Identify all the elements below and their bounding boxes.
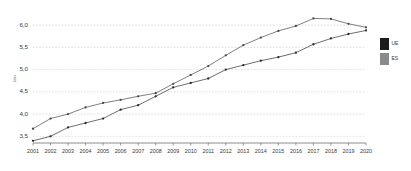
- data-point-es: [190, 82, 192, 84]
- data-point-es: [155, 95, 157, 97]
- data-point-ue: [119, 99, 121, 101]
- data-point-ue: [67, 113, 69, 115]
- chart-legend: UEES: [380, 38, 399, 65]
- y-axis-ticks: 3,54,04,55,05,56,0: [19, 21, 28, 139]
- x-tick-label: 2007: [132, 148, 144, 154]
- data-point-ue: [84, 106, 86, 108]
- legend-label-es[interactable]: ES: [392, 55, 399, 61]
- data-point-es: [172, 86, 174, 88]
- data-point-es: [277, 56, 279, 58]
- data-point-ue: [137, 95, 139, 97]
- y-tick-label: 5,5: [19, 43, 28, 50]
- data-point-es: [295, 52, 297, 54]
- y-tick-label: 4,5: [19, 87, 28, 94]
- data-point-ue: [225, 54, 227, 56]
- data-point-es: [67, 126, 69, 128]
- data-point-ue: [312, 17, 314, 19]
- x-tick-label: 2008: [150, 148, 162, 154]
- x-tick-label: 2002: [45, 148, 57, 154]
- y-tick-label: 4,0: [19, 110, 28, 117]
- data-point-ue: [330, 18, 332, 20]
- data-point-es: [102, 117, 104, 119]
- x-tick-label: 2001: [27, 148, 39, 154]
- x-tick-label: 2004: [80, 148, 92, 154]
- chart-canvas: 3,54,04,55,05,56,0 200120022003200420052…: [0, 0, 411, 171]
- data-point-es: [32, 140, 34, 142]
- y-tick-label: 5,0: [19, 65, 28, 72]
- y-tick-label: 3,5: [19, 132, 28, 139]
- x-tick-label: 2011: [202, 148, 214, 154]
- data-point-es: [347, 33, 349, 35]
- data-point-es: [312, 43, 314, 45]
- x-tick-label: 2019: [342, 148, 354, 154]
- y-axis-title: Índice: [13, 74, 17, 82]
- x-tick-label: 2010: [185, 148, 197, 154]
- x-tick-label: 2020: [360, 148, 372, 154]
- data-point-es: [330, 37, 332, 39]
- x-tick-label: 2016: [290, 148, 302, 154]
- series-layer: [32, 17, 367, 142]
- data-point-ue: [295, 25, 297, 27]
- data-point-ue: [172, 83, 174, 85]
- data-point-es: [225, 68, 227, 70]
- data-point-es: [49, 135, 51, 137]
- data-point-ue: [190, 74, 192, 76]
- x-tick-label: 2014: [255, 148, 267, 154]
- data-point-ue: [277, 30, 279, 32]
- data-point-ue: [207, 65, 209, 67]
- data-point-es: [137, 104, 139, 106]
- x-tick-label: 2005: [97, 148, 109, 154]
- x-tick-label: 2015: [272, 148, 284, 154]
- data-point-es: [84, 122, 86, 124]
- x-tick-label: 2006: [115, 148, 127, 154]
- data-point-ue: [155, 92, 157, 94]
- data-point-ue: [242, 44, 244, 46]
- x-tick-label: 2018: [325, 148, 337, 154]
- data-point-ue: [49, 117, 51, 119]
- data-point-es: [242, 64, 244, 66]
- data-point-ue: [102, 102, 104, 104]
- x-axis-labels: 2001200220032004200520062007200820092010…: [27, 148, 372, 154]
- x-tick-label: 2017: [307, 148, 319, 154]
- data-point-es: [365, 29, 367, 31]
- data-point-ue: [365, 26, 367, 28]
- legend-swatch-ue[interactable]: [380, 38, 389, 50]
- x-tick-label: 2009: [167, 148, 179, 154]
- series-line-es: [33, 30, 366, 140]
- series-line-ue: [33, 18, 366, 128]
- data-point-ue: [347, 23, 349, 25]
- data-point-es: [119, 108, 121, 110]
- x-tick-label: 2003: [62, 148, 74, 154]
- line-chart: 3,54,04,55,05,56,0 200120022003200420052…: [0, 0, 411, 171]
- data-point-ue: [32, 128, 34, 130]
- legend-label-ue[interactable]: UE: [392, 40, 400, 46]
- data-point-es: [207, 77, 209, 79]
- y-tick-label: 6,0: [19, 21, 28, 28]
- data-point-es: [260, 60, 262, 62]
- data-point-ue: [260, 36, 262, 38]
- legend-swatch-es[interactable]: [380, 53, 389, 65]
- x-tick-label: 2013: [237, 148, 249, 154]
- x-tick-label: 2012: [220, 148, 232, 154]
